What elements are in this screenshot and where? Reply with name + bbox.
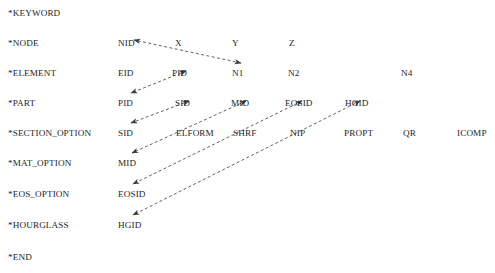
- field-label: Z: [289, 38, 295, 48]
- connection-arrow: [132, 101, 246, 153]
- field-label: PROPT: [344, 128, 373, 138]
- field-label: HGID: [345, 98, 368, 108]
- keyword-label: *EOS_OPTION: [8, 189, 69, 199]
- field-label: EOSID: [118, 189, 146, 199]
- field-label: Y: [232, 38, 239, 48]
- keyword-label: *PART: [8, 98, 35, 108]
- keyword-label: *END: [8, 252, 32, 262]
- field-label: NIP: [290, 128, 305, 138]
- field-label: SID: [118, 128, 133, 138]
- field-label: N4: [401, 68, 412, 78]
- field-label: ICOMP: [457, 128, 487, 138]
- connection-arrow: [134, 40, 241, 63]
- field-label: N1: [232, 68, 243, 78]
- field-label: HGID: [118, 220, 141, 230]
- field-label: ELFORM: [176, 128, 214, 138]
- field-label: EID: [118, 68, 134, 78]
- field-label: MID: [118, 158, 136, 168]
- connection-arrow: [133, 101, 360, 215]
- field-label: SID: [175, 98, 190, 108]
- keyword-label: *HOURGLASS: [8, 220, 69, 230]
- keyword-label: *ELEMENT: [8, 68, 56, 78]
- field-label: X: [175, 38, 182, 48]
- field-label: NID: [118, 38, 135, 48]
- diagram-canvas: *KEYWORD*NODENIDXYZ*ELEMENTEIDPIDN1N2N4*…: [0, 0, 495, 273]
- keyword-label: *NODE: [8, 38, 39, 48]
- field-label: SHRF: [233, 128, 256, 138]
- field-label: EOSID: [285, 98, 313, 108]
- keyword-label: *SECTION_OPTION: [8, 128, 91, 138]
- keyword-label: *KEYWORD: [8, 8, 60, 18]
- field-label: PID: [172, 68, 187, 78]
- field-label: PID: [118, 98, 133, 108]
- connection-arrow: [133, 101, 302, 184]
- field-label: N2: [288, 68, 299, 78]
- field-label: QR: [403, 128, 416, 138]
- field-label: MID: [231, 98, 249, 108]
- keyword-label: *MAT_OPTION: [8, 158, 71, 168]
